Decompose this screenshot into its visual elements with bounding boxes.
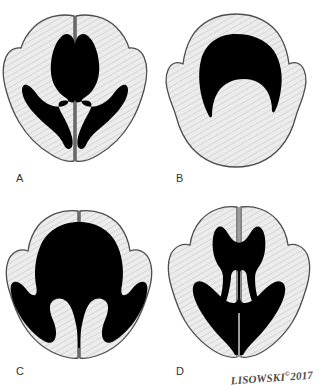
brain-diagram-b: [160, 0, 319, 193]
panel-c: C: [0, 193, 159, 386]
panel-b: B: [160, 0, 319, 193]
panel-a: A: [0, 0, 159, 193]
panel-label-a: A: [16, 173, 24, 184]
panel-label-b: B: [176, 173, 184, 184]
brain-diagram-c: [0, 193, 159, 386]
brain-diagram-a: [0, 0, 159, 193]
panel-label-d: D: [176, 366, 184, 377]
figure-root: A B: [0, 0, 319, 386]
panel-d: D: [160, 193, 319, 386]
brain-diagram-d: [160, 193, 319, 386]
signature-year: 2017: [289, 369, 313, 383]
panel-label-c: C: [16, 366, 24, 377]
